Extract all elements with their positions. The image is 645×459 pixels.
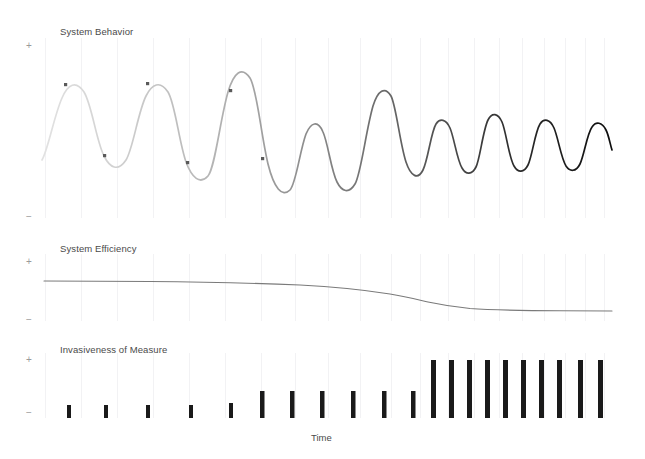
- bar: [431, 360, 436, 418]
- bar: [290, 391, 295, 418]
- panel-title-system-behavior: System Behavior: [60, 26, 133, 37]
- gridlines-behavior: [46, 38, 605, 218]
- bar: [411, 391, 416, 418]
- panel-title-invasiveness: Invasiveness of Measure: [60, 344, 167, 355]
- bar: [146, 405, 150, 418]
- invasiveness-bars: [67, 360, 603, 418]
- wave-series-line: [42, 72, 612, 193]
- panel-invasiveness: Invasiveness of Measure + −: [0, 330, 645, 430]
- bar: [485, 360, 490, 418]
- bar: [260, 391, 265, 418]
- wave-marker: [186, 161, 189, 164]
- bar: [67, 405, 71, 418]
- bar: [104, 405, 108, 418]
- wave-marker: [64, 83, 67, 86]
- wave-marker: [103, 154, 106, 157]
- bar: [557, 360, 562, 418]
- gridlines-invasiveness: [46, 353, 605, 418]
- bar: [503, 360, 508, 418]
- bar: [351, 391, 356, 418]
- wave-marker: [229, 89, 232, 92]
- panel-system-behavior: System Behavior + −: [0, 0, 645, 232]
- wave-marker: [261, 157, 264, 160]
- bar: [382, 391, 387, 418]
- bar: [598, 360, 603, 418]
- bar: [320, 391, 325, 418]
- bar: [521, 360, 526, 418]
- bar: [539, 360, 544, 418]
- panel-system-efficiency: System Efficiency + −: [0, 232, 645, 330]
- wave-marker: [146, 82, 149, 85]
- bar: [578, 360, 583, 418]
- gridlines-efficiency: [46, 254, 605, 321]
- panel-title-system-efficiency: System Efficiency: [60, 243, 137, 254]
- bar: [467, 360, 472, 418]
- figure-root: System Behavior + −: [0, 0, 645, 459]
- bar: [449, 360, 454, 418]
- bar: [189, 405, 193, 418]
- x-axis-label: Time: [311, 432, 332, 443]
- bar: [229, 403, 233, 418]
